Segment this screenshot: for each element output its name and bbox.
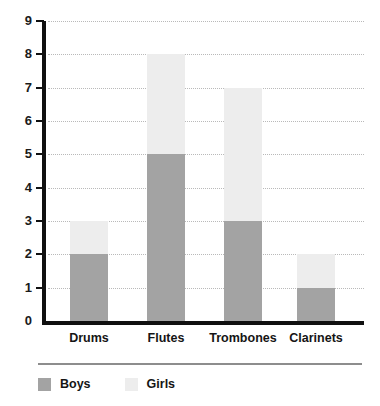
legend-item-girls[interactable]: Girls (125, 377, 176, 391)
legend-item-boys[interactable]: Boys (38, 377, 91, 391)
bar-stack-clarinets (297, 254, 335, 321)
y-axis-label-8: 8 (14, 46, 32, 61)
bar-group-drums[interactable] (70, 21, 108, 321)
y-axis-label-0: 0 (14, 313, 32, 328)
y-axis-line (42, 21, 46, 324)
bar-segment-flutes-boys[interactable] (147, 154, 185, 321)
x-axis-label-clarinets: Clarinets (268, 330, 364, 346)
bar-segment-drums-boys[interactable] (70, 254, 108, 321)
bar-group-trombones[interactable] (224, 21, 262, 321)
y-axis-label-4: 4 (14, 180, 32, 195)
y-axis-label-5: 5 (14, 146, 32, 161)
legend-swatch-girls-icon (125, 378, 138, 391)
stacked-bar-chart: 9 8 7 6 5 (0, 0, 380, 406)
legend-swatch-boys-icon (38, 378, 51, 391)
bar-group-clarinets[interactable] (297, 21, 335, 321)
legend-label-boys: Boys (60, 377, 91, 391)
legend-divider (38, 363, 362, 365)
bar-segment-trombones-boys[interactable] (224, 221, 262, 321)
bar-stack-flutes (147, 54, 185, 321)
bar-segment-clarinets-girls[interactable] (297, 254, 335, 287)
bar-segment-drums-girls[interactable] (70, 221, 108, 254)
bar-group-flutes[interactable] (147, 21, 185, 321)
legend: Boys Girls (38, 376, 209, 392)
y-axis-label-2: 2 (14, 246, 32, 261)
x-axis-labels: Drums Flutes Trombones Clarinets (46, 330, 364, 350)
y-axis-label-7: 7 (14, 80, 32, 95)
bar-segment-clarinets-boys[interactable] (297, 288, 335, 321)
x-axis-line (42, 321, 364, 325)
bar-segment-trombones-girls[interactable] (224, 88, 262, 221)
y-axis-label-3: 3 (14, 213, 32, 228)
legend-label-girls: Girls (147, 377, 176, 391)
bar-stack-drums (70, 221, 108, 321)
plot-area: 9 8 7 6 5 (0, 0, 380, 352)
bar-stack-trombones (224, 88, 262, 321)
y-axis-label-1: 1 (14, 280, 32, 295)
bars-layer (46, 21, 364, 321)
y-axis-label-6: 6 (14, 113, 32, 128)
y-axis-label-9: 9 (14, 13, 32, 28)
bar-segment-flutes-girls[interactable] (147, 54, 185, 154)
